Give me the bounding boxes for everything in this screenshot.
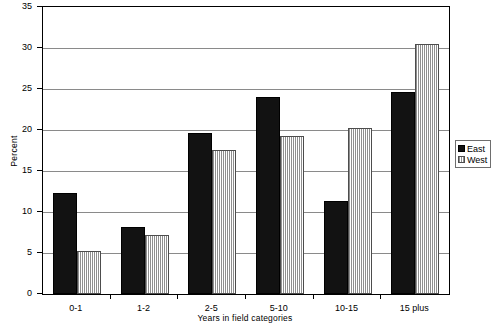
gridline (43, 253, 449, 254)
x-tick-mark (313, 294, 314, 299)
bar-west-5-10 (280, 136, 304, 294)
x-tick-label: 10-15 (313, 303, 381, 313)
x-tick-label: 2-5 (177, 303, 245, 313)
bar-west-10-15 (348, 128, 372, 294)
legend: East West (455, 140, 491, 168)
bar-east-1-2 (121, 227, 145, 294)
bar-east-2-5 (188, 133, 212, 294)
y-tick-mark (37, 252, 42, 253)
legend-swatch-west-icon (458, 156, 465, 163)
x-tick-mark (380, 294, 381, 299)
bar-east-15-plus (391, 92, 415, 294)
x-tick-label: 1-2 (110, 303, 178, 313)
x-tick-mark (110, 294, 111, 299)
legend-item-east: East (458, 143, 487, 154)
y-tick-mark (37, 6, 42, 7)
gridline (43, 130, 449, 131)
y-tick-mark (37, 88, 42, 89)
y-tick-label: 10 (22, 207, 32, 216)
legend-item-west: West (458, 154, 487, 165)
bar-west-15-plus (415, 44, 439, 294)
legend-swatch-east-icon (458, 145, 465, 152)
y-axis-title: Percent (9, 121, 19, 181)
gridline (43, 48, 449, 49)
y-tick-label: 20 (22, 125, 32, 134)
x-tick-label: 0-1 (42, 303, 110, 313)
y-tick-label: 0 (27, 289, 32, 298)
x-tick-label: 5-10 (245, 303, 313, 313)
y-tick-label: 25 (22, 84, 32, 93)
y-tick-mark (37, 211, 42, 212)
y-axis: 05101520253035 (0, 0, 42, 322)
gridline (43, 171, 449, 172)
bar-west-1-2 (145, 235, 169, 294)
legend-label-east: East (467, 144, 485, 154)
legend-label-west: West (467, 155, 487, 165)
x-tick-mark (177, 294, 178, 299)
y-tick-label: 5 (27, 248, 32, 257)
bar-east-10-15 (324, 201, 348, 294)
y-tick-label: 30 (22, 43, 32, 52)
y-tick-label: 15 (22, 166, 32, 175)
bar-east-0-1 (53, 193, 77, 294)
y-tick-mark (37, 170, 42, 171)
y-tick-mark (37, 47, 42, 48)
y-tick-mark (37, 129, 42, 130)
gridline (43, 212, 449, 213)
x-axis-title: Years in field categories (42, 313, 448, 323)
gridline (43, 89, 449, 90)
bar-west-2-5 (212, 150, 236, 294)
bar-west-0-1 (77, 251, 101, 294)
x-tick-label: 15 plus (380, 303, 448, 313)
x-tick-mark (245, 294, 246, 299)
y-tick-mark (37, 293, 42, 294)
plot-area (42, 6, 450, 295)
y-tick-label: 35 (22, 2, 32, 11)
bar-east-5-10 (256, 97, 280, 294)
